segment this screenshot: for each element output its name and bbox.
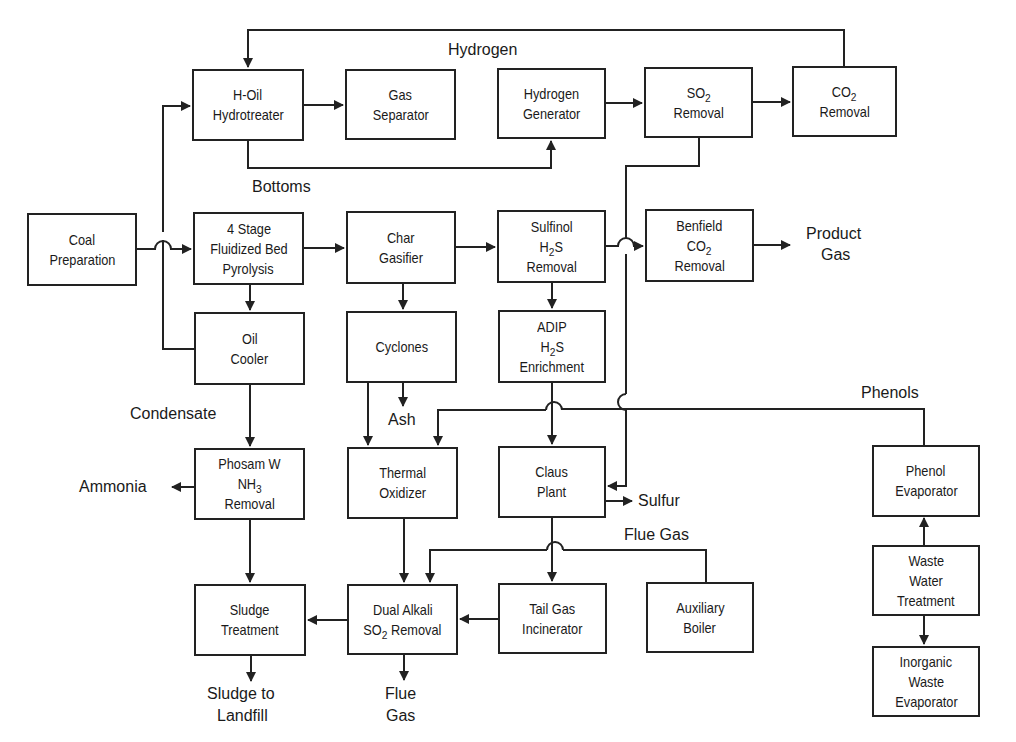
cyclones-box: Cyclones [346,311,457,383]
flue-gas-label-bottom-line1: Flue [385,684,416,704]
coal-preparation-box: Coal Preparation [27,213,137,286]
sulfur-label: Sulfur [638,491,680,511]
ash-label: Ash [388,410,416,430]
condensate-label: Condensate [130,404,216,424]
waste-water-treatment-box: Waste Water Treatment [872,545,980,616]
benfield-co2-removal-box: Benfield CO2 Removal [645,209,754,282]
claus-plant-box: Claus Plant [498,446,606,518]
sludge-to-landfill-label-line2: Landfill [217,706,268,726]
inorganic-waste-evaporator-box: Inorganic Waste Evaporator [872,646,980,717]
dual-alkali-so2-removal-box: Dual Alkali SO2 Removal [347,584,458,655]
product-gas-label-line1: Product [806,224,861,244]
sulfinol-h2s-removal-box: Sulfinol H2S Removal [497,210,606,283]
ammonia-label: Ammonia [79,477,147,497]
gas-separator-box: Gas Separator [345,69,456,140]
sludge-to-landfill-label-line1: Sludge to [207,684,275,704]
phenols-label: Phenols [861,383,919,403]
pyrolysis-box: 4 Stage Fluidized Bed Pyrolysis [193,212,304,285]
hydrogen-label: Hydrogen [448,40,517,60]
tail-gas-incinerator-box: Tail Gas Incinerator [498,583,607,654]
auxiliary-boiler-box: Auxiliary Boiler [646,582,754,653]
co2-removal-box: CO2 Removal [792,66,897,137]
flue-gas-label-bottom-line2: Gas [386,706,415,726]
sludge-treatment-box: Sludge Treatment [194,584,306,656]
h-oil-hydrotreater-box: H-Oil Hydrotreater [192,69,304,141]
oil-cooler-box: Oil Cooler [194,312,305,385]
hydrogen-generator-box: Hydrogen Generator [497,68,606,139]
phenol-evaporator-box: Phenol Evaporator [872,445,980,517]
flue-gas-label-top: Flue Gas [624,525,689,545]
product-gas-label-line2: Gas [821,245,850,265]
thermal-oxidizer-box: Thermal Oxidizer [347,447,458,519]
so2-removal-box: SO2 Removal [644,67,753,138]
bottoms-label: Bottoms [252,177,311,197]
phosam-nh3-removal-box: Phosam W NH3 Removal [194,448,305,520]
adip-h2s-enrichment-box: ADIP H2S Enrichment [498,310,606,383]
char-gasifier-box: Char Gasifier [346,211,456,284]
